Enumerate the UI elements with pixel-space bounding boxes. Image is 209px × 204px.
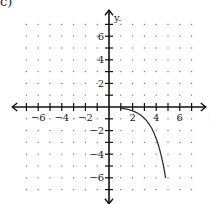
grid-dot — [61, 95, 62, 96]
grid-dot — [191, 177, 192, 178]
grid-dot — [120, 71, 121, 72]
grid-dot — [120, 154, 121, 155]
y-tick-label: 6 — [98, 31, 104, 42]
grid-dot — [167, 130, 168, 131]
grid-dot — [97, 142, 98, 143]
grid-dot — [49, 142, 50, 143]
grid-dot — [191, 83, 192, 84]
grid-dot — [144, 189, 145, 190]
grid-dot — [120, 24, 121, 25]
x-tick-label: −6 — [31, 112, 46, 123]
grid-dot — [120, 177, 121, 178]
grid-dot — [49, 36, 50, 37]
grid-dot — [73, 142, 74, 143]
grid-dot — [38, 83, 39, 84]
grid-dot — [167, 95, 168, 96]
grid-dot — [49, 83, 50, 84]
grid-dot — [38, 142, 39, 143]
grid-dot — [191, 47, 192, 48]
grid-dot — [38, 130, 39, 131]
grid-dot — [85, 154, 86, 155]
grid-dot — [85, 59, 86, 60]
grid-dot — [167, 36, 168, 37]
grid-dot — [38, 165, 39, 166]
grid-dot — [167, 24, 168, 25]
graph: −6−4−2246642−2−4−6xy. — [0, 0, 209, 204]
grid-dot — [61, 177, 62, 178]
grid-dot — [156, 24, 157, 25]
grid-dot — [191, 130, 192, 131]
grid-dot — [85, 83, 86, 84]
grid-dot — [191, 118, 192, 119]
grid-dot — [156, 142, 157, 143]
grid-dot — [26, 24, 27, 25]
grid-dot — [38, 189, 39, 190]
grid-dot — [120, 189, 121, 190]
grid-dot — [167, 142, 168, 143]
grid-dot — [85, 47, 86, 48]
grid-dot — [156, 47, 157, 48]
grid-dot — [61, 36, 62, 37]
grid-dot — [144, 36, 145, 37]
grid-dot — [179, 142, 180, 143]
grid-dot — [179, 189, 180, 190]
grid-dot — [167, 165, 168, 166]
grid-dot — [144, 47, 145, 48]
grid-dot — [61, 154, 62, 155]
grid-dot — [191, 189, 192, 190]
grid-dot — [73, 154, 74, 155]
grid-dot — [26, 59, 27, 60]
y-tick-label: 4 — [98, 54, 104, 65]
grid-dot — [132, 24, 133, 25]
grid-dot — [132, 36, 133, 37]
grid-dot — [167, 83, 168, 84]
grid-dot — [26, 95, 27, 96]
grid-dot — [191, 154, 192, 155]
grid-dot — [132, 142, 133, 143]
grid-dot — [156, 83, 157, 84]
grid-dot — [49, 189, 50, 190]
grid-dot — [179, 165, 180, 166]
grid-dot — [26, 83, 27, 84]
grid-dot — [191, 71, 192, 72]
grid-dot — [144, 165, 145, 166]
grid-dot — [97, 189, 98, 190]
grid-dot — [49, 95, 50, 96]
grid-dot — [73, 47, 74, 48]
grid-dot — [179, 130, 180, 131]
grid-dot — [61, 59, 62, 60]
grid-dot — [179, 71, 180, 72]
grid-dot — [156, 165, 157, 166]
grid-dot — [120, 83, 121, 84]
grid-dot — [38, 59, 39, 60]
grid-dot — [97, 118, 98, 119]
grid-dot — [167, 177, 168, 178]
grid-dot — [73, 24, 74, 25]
grid-dot — [38, 177, 39, 178]
grid-dot — [73, 189, 74, 190]
grid-dot — [85, 24, 86, 25]
grid-dot — [26, 142, 27, 143]
grid-dot — [85, 177, 86, 178]
grid-dot — [38, 36, 39, 37]
grid-dot — [156, 177, 157, 178]
grid-dot — [144, 24, 145, 25]
grid-dot — [49, 165, 50, 166]
grid-dot — [85, 36, 86, 37]
grid-dot — [167, 189, 168, 190]
grid-dot — [120, 142, 121, 143]
y-tick-label: −6 — [89, 172, 104, 183]
grid-dot — [73, 95, 74, 96]
grid-dot — [49, 47, 50, 48]
grid-dot — [120, 36, 121, 37]
grid-dot — [167, 71, 168, 72]
grid-dot — [61, 165, 62, 166]
x-tick-label: 6 — [177, 112, 183, 123]
grid-dot — [132, 59, 133, 60]
grid-dot — [120, 118, 121, 119]
grid-dot — [38, 47, 39, 48]
grid-dot — [73, 71, 74, 72]
grid-dot — [49, 24, 50, 25]
grid-dot — [156, 59, 157, 60]
grid-dot — [97, 71, 98, 72]
